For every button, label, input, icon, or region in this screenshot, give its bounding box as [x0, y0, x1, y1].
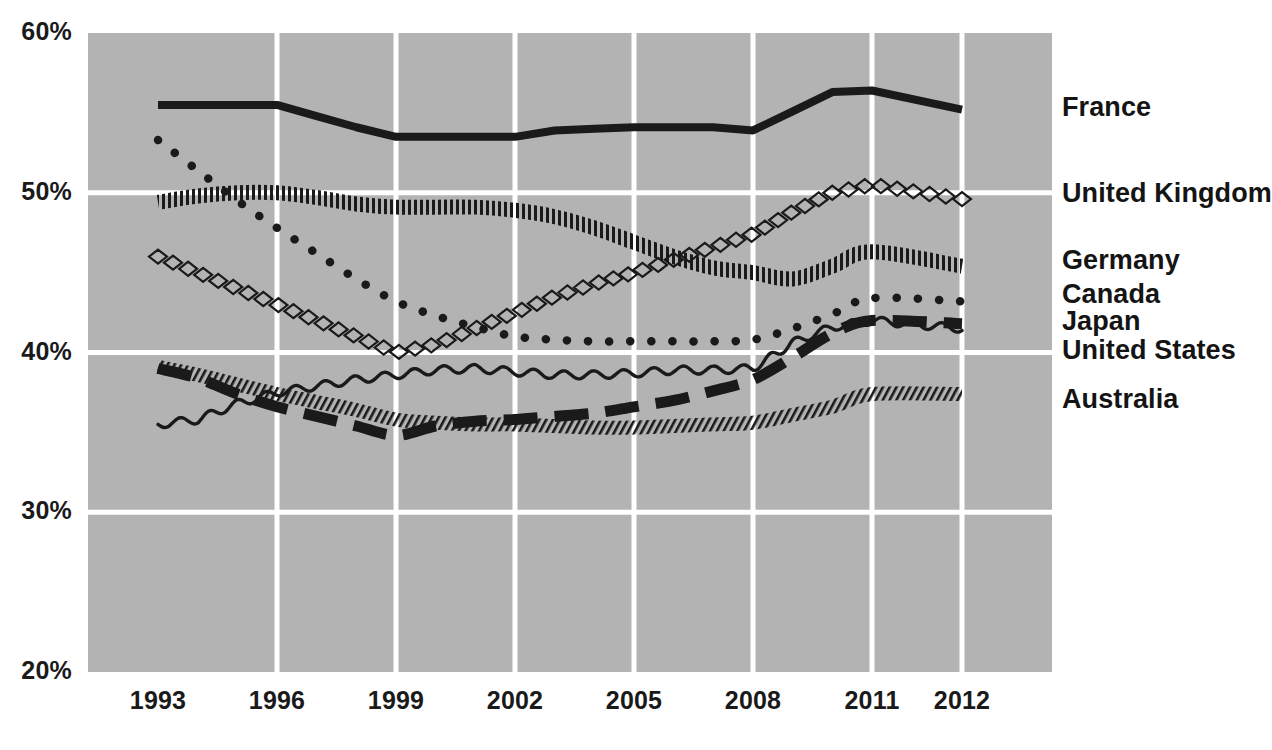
y-tick-label-50: 50% — [0, 177, 72, 206]
x-tick-label-2012: 2012 — [912, 686, 1012, 715]
y-tick-label-60: 60% — [0, 17, 72, 46]
y-tick-label-40: 40% — [0, 337, 72, 366]
series-label-germany: Germany — [1062, 245, 1180, 276]
x-tick-label-2008: 2008 — [703, 686, 803, 715]
x-tick-label-2005: 2005 — [584, 686, 684, 715]
x-tick-label-1999: 1999 — [346, 686, 446, 715]
y-tick-label-20: 20% — [0, 656, 72, 685]
y-tick-label-30: 30% — [0, 496, 72, 525]
series-label-united-states: United States — [1062, 335, 1236, 366]
x-tick-label-1993: 1993 — [108, 686, 208, 715]
series-label-australia: Australia — [1062, 384, 1178, 415]
series-label-france: France — [1062, 92, 1151, 123]
series-label-japan: Japan — [1062, 306, 1141, 337]
series-label-united-kingdom: United Kingdom — [1062, 178, 1272, 209]
x-tick-label-2011: 2011 — [822, 686, 922, 715]
x-tick-label-2002: 2002 — [465, 686, 565, 715]
x-tick-label-1996: 1996 — [227, 686, 327, 715]
